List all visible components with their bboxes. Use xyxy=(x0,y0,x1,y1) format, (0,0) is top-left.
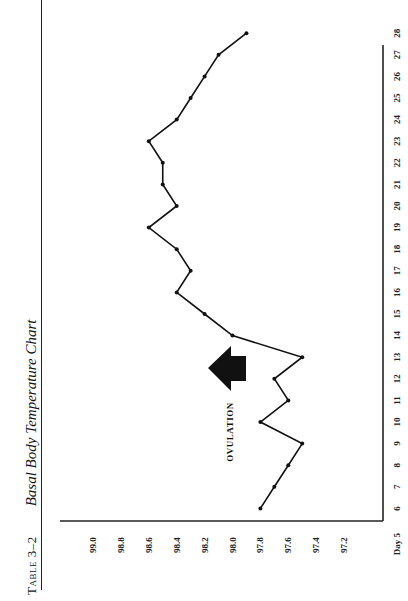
data-point xyxy=(161,182,165,186)
data-point xyxy=(147,139,151,143)
data-point xyxy=(189,269,193,273)
temperature-tick: 97.8 xyxy=(255,537,265,553)
data-point xyxy=(286,398,290,402)
temperature-tick: 97.4 xyxy=(311,537,321,553)
data-point xyxy=(258,506,262,510)
day-tick: 28 xyxy=(392,28,402,38)
temperature-tick: 98.4 xyxy=(172,537,182,553)
data-point xyxy=(231,334,235,338)
day-tick: 17 xyxy=(392,266,402,276)
day-tick: 26 xyxy=(392,71,402,81)
temperature-tick: 97.6 xyxy=(283,537,293,553)
temperature-tick: 99.0 xyxy=(88,537,98,553)
data-point xyxy=(217,53,221,57)
temperature-tick: 97.2 xyxy=(339,537,349,553)
data-point xyxy=(161,161,165,165)
day-tick: 18 xyxy=(392,244,402,254)
temperature-tick: 98.8 xyxy=(116,537,126,553)
data-point xyxy=(272,377,276,381)
day-tick: 14 xyxy=(392,331,402,341)
ovulation-label: OVULATION xyxy=(225,402,235,461)
data-point xyxy=(286,463,290,467)
data-point xyxy=(258,420,262,424)
day-tick: 24 xyxy=(392,115,402,125)
data-point xyxy=(272,485,276,489)
day-tick: 10 xyxy=(392,417,402,427)
data-point xyxy=(300,442,304,446)
temperature-tick: 98.0 xyxy=(228,537,238,553)
day-tick: 12 xyxy=(392,374,402,384)
day-tick: 8 xyxy=(392,462,402,467)
day-tick: 19 xyxy=(392,223,402,233)
data-point xyxy=(175,247,179,251)
day-tick: 11 xyxy=(392,396,402,405)
data-point xyxy=(175,118,179,122)
day-tick: 9 xyxy=(392,441,402,446)
ovulation-arrow-icon xyxy=(208,346,246,391)
day-tick: 7 xyxy=(392,484,402,489)
data-point xyxy=(189,96,193,100)
day-tick: 6 xyxy=(392,506,402,511)
day-tick-labels: Day 567891011121314151617181920212223242… xyxy=(392,28,402,555)
data-point xyxy=(300,355,304,359)
bbt-chart: 99.098.898.698.498.298.097.897.697.497.2… xyxy=(0,0,408,601)
day-tick: 25 xyxy=(392,93,402,103)
data-point xyxy=(203,74,207,78)
day-tick: 16 xyxy=(392,287,402,297)
day-tick: 15 xyxy=(392,309,402,319)
data-point xyxy=(147,226,151,230)
day-tick: 13 xyxy=(392,352,402,362)
day-tick: 21 xyxy=(392,179,402,189)
data-point xyxy=(175,290,179,294)
data-point xyxy=(203,312,207,316)
data-point xyxy=(244,31,248,35)
day-tick: 23 xyxy=(392,136,402,146)
temperature-tick: 98.6 xyxy=(144,537,154,553)
temperature-tick-labels: 99.098.898.698.498.298.097.897.697.497.2 xyxy=(88,537,349,553)
temperature-tick: 98.2 xyxy=(200,537,210,553)
day-tick: 22 xyxy=(392,158,402,168)
chart-axes xyxy=(60,45,383,521)
day-tick: 20 xyxy=(392,201,402,211)
day-tick: 27 xyxy=(392,50,402,60)
data-point xyxy=(175,204,179,208)
day-tick: Day 5 xyxy=(392,532,402,555)
